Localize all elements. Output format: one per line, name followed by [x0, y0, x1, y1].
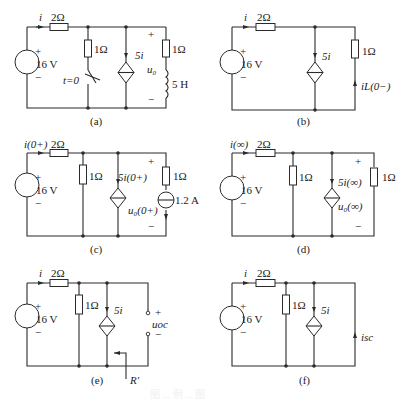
dep-source-label: 5i: [135, 49, 144, 61]
resistor-icon: [256, 150, 275, 157]
oc-plus: +: [155, 306, 161, 318]
source-plus: +: [35, 45, 41, 57]
out-minus: −: [148, 93, 154, 105]
current-label: i: [39, 11, 42, 23]
resistor-label: 2Ω: [257, 267, 271, 279]
panel-b: i 2Ω + 16 V − 5i 1Ω iL(0−) (b): [220, 11, 391, 128]
sc-current-label: isc: [361, 331, 373, 343]
resistor-icon: [76, 295, 83, 314]
source-value: 16 V: [36, 58, 58, 70]
resistor-label: 2Ω: [257, 138, 271, 150]
out-minus: −: [355, 220, 361, 232]
resistor-label: 1Ω: [172, 43, 186, 55]
inductor-icon: [166, 70, 168, 98]
resistor-icon: [50, 24, 68, 31]
resistor-icon: [352, 40, 359, 58]
resistor-label: 1Ω: [382, 171, 396, 183]
source-plus: +: [35, 300, 41, 312]
terminal-icon: [146, 332, 150, 336]
panel-caption: (b): [297, 115, 310, 128]
resistor-icon: [163, 167, 170, 185]
source-minus: −: [35, 71, 41, 83]
resistor-icon: [50, 150, 68, 157]
current-arrow-icon: [124, 53, 128, 58]
resistor-label: 1Ω: [173, 170, 187, 182]
resistor-label: 1Ω: [94, 43, 108, 55]
current-arrow-icon: [353, 332, 357, 338]
source-plus: +: [35, 171, 41, 183]
source-minus: −: [240, 326, 246, 338]
resistor-label: 1Ω: [362, 45, 376, 57]
inductor-current-label: iL(0−): [361, 80, 391, 93]
resistor-label: 2Ω: [51, 11, 65, 23]
current-arrow-icon: [312, 307, 316, 312]
dep-source-label: 5i: [322, 50, 331, 62]
resistor-label: 1Ω: [89, 170, 103, 182]
source-value: 16 V: [36, 313, 58, 325]
resistor-icon: [80, 165, 87, 184]
source-value: 16 V: [241, 184, 263, 196]
out-plus: +: [148, 28, 154, 40]
resistor-label: 2Ω: [51, 267, 65, 279]
current-label: i(0+): [24, 138, 48, 151]
resistor-label: 1Ω: [299, 171, 313, 183]
panel-e: i 2Ω + 16 V − 1Ω 5i + uoc − R′ (e): [15, 267, 168, 387]
resistor-icon: [256, 24, 275, 31]
panel-a: i 2Ω + 16 V − 1Ω t=0 5i + u₀ − 1Ω 5 H (a…: [15, 11, 188, 128]
source-value: 16 V: [241, 58, 263, 70]
panel-c: i(0+) 2Ω + 16 V − 1Ω 5i(0+) + u₀(0+) − 1…: [15, 138, 199, 256]
source-minus: −: [240, 197, 246, 209]
resistor-icon: [85, 40, 92, 57]
figure-caption: 图 ... 例 ... 图: [150, 388, 205, 400]
current-arrow-icon: [38, 25, 44, 29]
source-minus: −: [35, 197, 41, 209]
current-arrow-icon: [243, 151, 249, 155]
current-label: i(∞): [230, 138, 249, 151]
current-arrow-icon: [105, 307, 109, 312]
out-voltage: u₀(0+): [128, 204, 158, 217]
switch-label: t=0: [63, 74, 79, 86]
panel-caption: (d): [297, 243, 310, 256]
source-value: 16 V: [241, 313, 263, 325]
resistor-icon: [50, 280, 68, 287]
current-arrow-icon: [164, 214, 168, 220]
current-arrow-icon: [353, 80, 357, 86]
inductor-label: 5 H: [172, 78, 188, 90]
equivalent-resistance-label: R′: [129, 374, 140, 386]
terminal-icon: [146, 311, 150, 315]
current-arrow-icon: [313, 53, 317, 58]
out-voltage: u₀: [147, 63, 157, 75]
source-value: 16 V: [36, 184, 58, 196]
out-plus: +: [355, 155, 361, 167]
oc-minus: −: [155, 328, 161, 340]
current-arrow-icon: [243, 25, 249, 29]
resistor-icon: [283, 295, 290, 314]
dep-source-label: 5i: [321, 304, 330, 316]
resistor-icon: [290, 166, 297, 185]
current-arrow-icon: [38, 151, 44, 155]
current-arrow-icon: [330, 179, 334, 184]
current-source-label: 1.2 A: [175, 194, 199, 206]
panel-caption: (c): [90, 243, 103, 256]
resistor-icon: [163, 40, 170, 57]
source-minus: −: [35, 326, 41, 338]
source-plus: +: [240, 171, 246, 183]
resistor-label: 1Ω: [85, 299, 99, 311]
resistor-label: 2Ω: [257, 11, 271, 23]
source-plus: +: [240, 300, 246, 312]
dep-source-label: 5i(∞): [338, 176, 362, 189]
source-minus: −: [240, 71, 246, 83]
resistor-icon: [371, 168, 378, 186]
current-label: i: [39, 267, 42, 279]
current-arrow-icon: [243, 281, 249, 285]
resistor-icon: [256, 280, 275, 287]
panel-f: i 2Ω + 16 V − 1Ω 5i isc (f): [220, 267, 373, 387]
panel-caption: (e): [91, 374, 104, 387]
out-plus: +: [148, 155, 154, 167]
out-voltage: u₀(∞): [338, 200, 363, 213]
panel-caption: (f): [299, 374, 310, 387]
resistor-label: 1Ω: [292, 299, 306, 311]
current-arrow-icon: [38, 281, 44, 285]
resistor-label: 2Ω: [51, 138, 65, 150]
dep-source-label: 5i: [114, 304, 123, 316]
